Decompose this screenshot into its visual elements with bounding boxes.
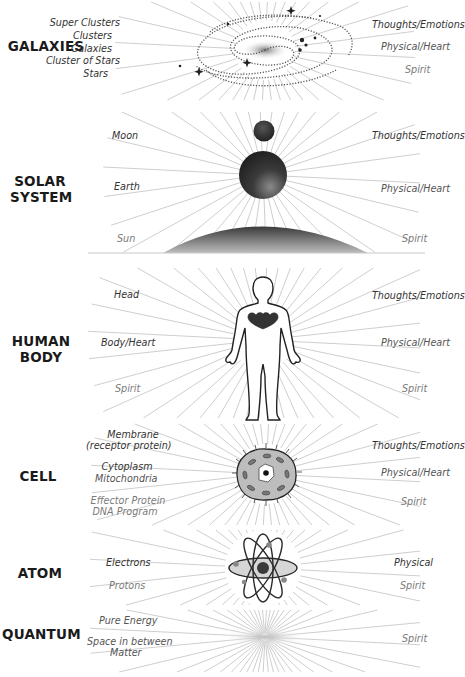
label-left: Electrons xyxy=(106,557,151,568)
label-right: Physical/Heart xyxy=(381,41,450,52)
ray-line xyxy=(263,504,264,525)
ray-line xyxy=(268,424,269,444)
section-title-line: SOLAR xyxy=(10,173,70,189)
ray-line xyxy=(244,424,254,447)
ray-line xyxy=(283,74,303,100)
section-title: HUMAN BODY xyxy=(6,333,76,365)
cell-icon xyxy=(232,443,302,506)
label-left: Effector Protein xyxy=(90,495,166,506)
label-right: Spirit xyxy=(400,580,425,591)
label-left: Cytoplasm xyxy=(97,461,157,472)
section-title-line: SYSTEM xyxy=(10,189,70,205)
energy-haze-icon xyxy=(221,628,309,646)
label-left: Membrane xyxy=(100,429,166,440)
ray-line xyxy=(292,298,420,333)
section-title: ATOM xyxy=(16,565,64,581)
ray-line xyxy=(298,530,348,553)
ray-line xyxy=(274,79,281,100)
ray-line xyxy=(122,59,237,94)
ray-line xyxy=(255,503,259,525)
spiral-galaxy-icon xyxy=(179,6,352,86)
ray-line xyxy=(279,603,280,605)
label-left: Cluster of Stars xyxy=(46,55,120,66)
ray-line xyxy=(269,80,272,100)
ray-line xyxy=(291,424,343,458)
label-left: Earth xyxy=(114,181,140,192)
ray-line xyxy=(274,503,280,525)
ray-line xyxy=(188,490,241,525)
label-right: Spirit xyxy=(401,496,426,507)
section-title: QUANTUM xyxy=(2,626,78,642)
ray-line xyxy=(254,79,259,100)
ray-line xyxy=(295,530,321,547)
ray-line xyxy=(296,587,327,605)
section-title: SOLAR SYSTEM xyxy=(10,173,70,205)
label-left: Moon xyxy=(112,130,138,141)
label-right: Physical/Heart xyxy=(381,183,450,194)
ray-line xyxy=(115,43,235,49)
label-right: Physical/Heart xyxy=(381,467,450,478)
ray-line xyxy=(272,424,276,445)
ray-line xyxy=(267,2,268,20)
label-left: Galaxies xyxy=(71,43,112,54)
label-left: DNA Program xyxy=(92,506,158,517)
ray-line xyxy=(281,424,295,448)
ray-line xyxy=(233,424,249,449)
ray-line xyxy=(103,352,235,411)
ray-line xyxy=(94,348,234,386)
ray-line xyxy=(284,600,287,605)
ray-line xyxy=(269,504,271,525)
ray-line xyxy=(92,304,234,334)
ray-line xyxy=(272,2,276,21)
ray-line xyxy=(242,601,244,605)
ray-line xyxy=(293,323,420,337)
ray-line xyxy=(250,2,256,21)
ray-line xyxy=(282,530,285,535)
ray-line xyxy=(274,112,378,169)
ray-line xyxy=(219,72,245,100)
ray-line xyxy=(275,176,420,183)
label-left: Matter xyxy=(110,647,142,658)
ray-line xyxy=(180,584,228,606)
ray-line xyxy=(116,54,235,69)
ray-line xyxy=(278,501,289,525)
ray-line xyxy=(210,494,244,525)
section-title-line: BODY xyxy=(6,349,76,365)
ray-line xyxy=(177,360,241,418)
ray-line xyxy=(288,268,373,324)
ray-line xyxy=(222,594,235,606)
ray-line xyxy=(292,489,355,525)
ray-line xyxy=(229,530,238,540)
label-left: Mitochondria xyxy=(95,473,157,484)
label-left: Stars xyxy=(83,68,108,79)
section-title: CELL xyxy=(18,468,58,484)
label-left: Super Clusters xyxy=(50,17,120,28)
ray-line xyxy=(263,80,264,100)
label-right: Spirit xyxy=(402,633,427,644)
ray-line xyxy=(253,424,259,445)
ray-line xyxy=(282,499,299,525)
ray-line xyxy=(197,530,230,549)
ray-line xyxy=(288,424,321,454)
ray-line xyxy=(301,570,420,576)
label-right: Spirit xyxy=(402,233,427,244)
ray-line xyxy=(107,138,251,172)
ray-line xyxy=(151,2,237,38)
label-right: Thoughts/Emotions xyxy=(372,130,465,141)
label-right: Thoughts/Emotions xyxy=(372,290,465,301)
label-left: Space in between xyxy=(87,636,173,647)
ray-line xyxy=(287,530,294,538)
ray-line xyxy=(293,424,377,462)
ray-line xyxy=(289,493,329,525)
label-right: Physical xyxy=(394,557,433,568)
label-left: Spirit xyxy=(115,383,140,394)
ray-line xyxy=(122,112,252,170)
label-left: Head xyxy=(114,289,139,300)
label-right: Thoughts/Emotions xyxy=(372,19,465,30)
atom-icon xyxy=(228,534,297,603)
ray-line xyxy=(277,530,278,533)
label-left: Sun xyxy=(117,233,135,244)
ray-line xyxy=(291,530,305,543)
label-right: Spirit xyxy=(405,64,430,75)
ray-line xyxy=(238,530,242,536)
